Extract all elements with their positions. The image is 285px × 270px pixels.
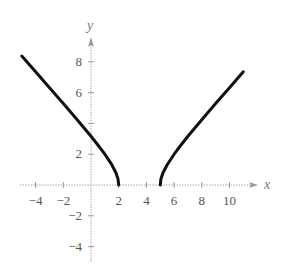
x-tick-label: −4: [29, 193, 43, 208]
y-tick-label: 6: [76, 85, 83, 100]
x-tick-label: −2: [56, 193, 70, 208]
y-tick-label: −2: [68, 208, 82, 223]
x-tick-label: 6: [171, 193, 178, 208]
y-axis-label: y: [85, 18, 94, 33]
x-tick-label: 10: [223, 193, 236, 208]
y-tick-labels: 8 6 2 −2 −4: [68, 54, 82, 254]
function-graph: x y −4 −2 2 4 6 8 10 8 6 2 −2 −4: [0, 0, 285, 270]
x-tick-label: 2: [115, 193, 122, 208]
y-tick-label: 8: [76, 54, 83, 69]
x-tick-label: 8: [199, 193, 206, 208]
y-ticks: [88, 62, 94, 247]
curve-left-branch: [22, 56, 119, 185]
x-tick-label: 4: [143, 193, 150, 208]
x-axis-label: x: [263, 177, 271, 192]
curve-right-branch: [160, 72, 243, 185]
x-tick-labels: −4 −2 2 4 6 8 10: [29, 193, 236, 208]
y-tick-label: 2: [76, 146, 83, 161]
y-tick-label: −4: [68, 239, 82, 254]
